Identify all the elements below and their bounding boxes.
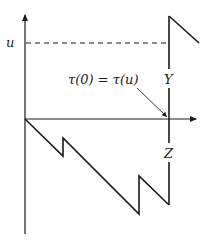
u-label: u (6, 35, 14, 50)
y-jump-label: Y (164, 72, 174, 87)
ruin-process-diagram: u Y Z τ(0) = τ(u) (0, 0, 209, 240)
risk-process-path (25, 119, 169, 214)
z-jump-label: Z (163, 146, 174, 161)
post-jump-segment (169, 16, 199, 43)
tau-pointer-arrow (137, 88, 167, 117)
tau-equation-label: τ(0) = τ(u) (68, 72, 138, 87)
